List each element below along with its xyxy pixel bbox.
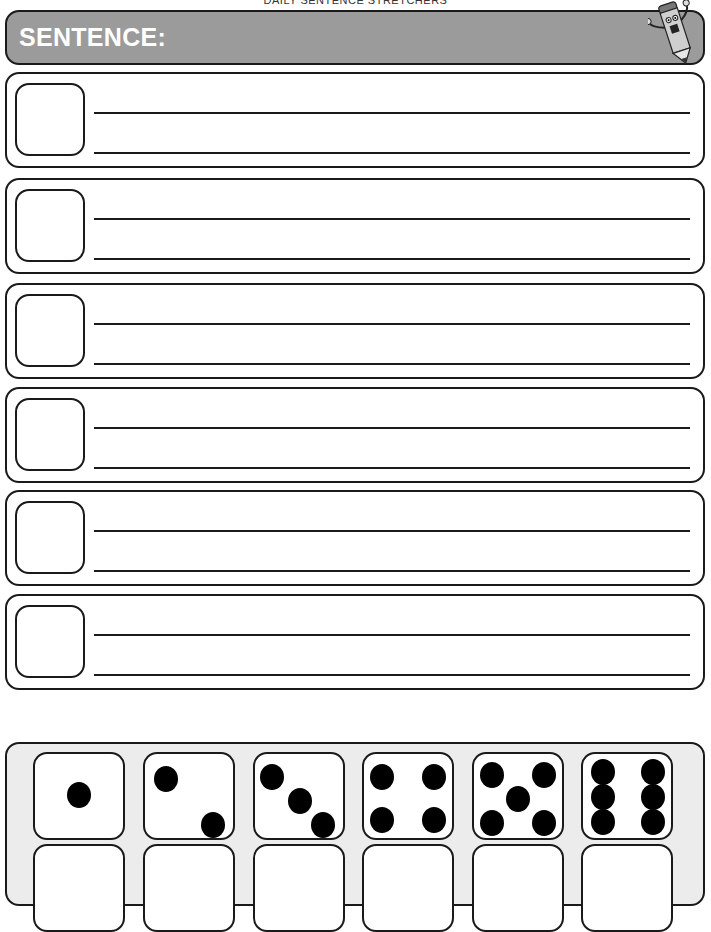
sentence-label: SENTENCE: bbox=[19, 23, 166, 52]
sentence-row bbox=[5, 283, 705, 379]
pip bbox=[480, 810, 504, 836]
pip bbox=[591, 809, 615, 835]
pip bbox=[591, 759, 615, 785]
sentence-row bbox=[5, 594, 705, 690]
sentence-row bbox=[5, 387, 705, 483]
writing-line[interactable] bbox=[94, 530, 690, 532]
pip bbox=[311, 812, 335, 838]
writing-line[interactable] bbox=[94, 258, 690, 260]
pip bbox=[532, 810, 556, 836]
pencil-mascot-icon bbox=[648, 0, 708, 76]
pip bbox=[154, 766, 178, 792]
writing-line[interactable] bbox=[94, 323, 690, 325]
writing-line[interactable] bbox=[94, 634, 690, 636]
answer-box[interactable] bbox=[253, 844, 345, 932]
sentence-row bbox=[5, 72, 705, 168]
pip bbox=[532, 762, 556, 788]
pip bbox=[260, 764, 284, 790]
answer-box[interactable] bbox=[472, 844, 564, 932]
sentence-row bbox=[5, 178, 705, 274]
answer-box[interactable] bbox=[362, 844, 454, 932]
writing-line[interactable] bbox=[94, 467, 690, 469]
sentence-row bbox=[5, 490, 705, 586]
writing-line[interactable] bbox=[94, 674, 690, 676]
pip bbox=[288, 788, 312, 814]
answer-box[interactable] bbox=[143, 844, 235, 932]
writing-line[interactable] bbox=[94, 152, 690, 154]
pip bbox=[201, 812, 225, 838]
die-face-6-icon bbox=[581, 752, 673, 840]
writing-line[interactable] bbox=[94, 427, 690, 429]
number-box[interactable] bbox=[15, 294, 85, 367]
die-face-5-icon bbox=[472, 752, 564, 840]
dice-panel bbox=[5, 742, 705, 906]
pip bbox=[641, 759, 665, 785]
answer-box[interactable] bbox=[581, 844, 673, 932]
pip bbox=[67, 782, 91, 808]
answer-box[interactable] bbox=[33, 844, 125, 932]
writing-line[interactable] bbox=[94, 363, 690, 365]
writing-line[interactable] bbox=[94, 218, 690, 220]
pip bbox=[480, 762, 504, 788]
pip bbox=[370, 807, 394, 833]
die-face-4-icon bbox=[362, 752, 454, 840]
die-face-2-icon bbox=[143, 752, 235, 840]
pip bbox=[591, 784, 615, 810]
pip bbox=[506, 786, 530, 812]
sentence-header: SENTENCE: bbox=[5, 10, 705, 65]
writing-line[interactable] bbox=[94, 570, 690, 572]
pip bbox=[641, 784, 665, 810]
number-box[interactable] bbox=[15, 189, 85, 262]
die-face-3-icon bbox=[253, 752, 345, 840]
pip bbox=[641, 809, 665, 835]
number-box[interactable] bbox=[15, 398, 85, 471]
writing-line[interactable] bbox=[94, 112, 690, 114]
pip bbox=[422, 807, 446, 833]
pip bbox=[370, 764, 394, 790]
number-box[interactable] bbox=[15, 605, 85, 678]
die-face-1-icon bbox=[33, 752, 125, 840]
document-title: DAILY SENTENCE STRETCHERS bbox=[0, 0, 711, 6]
number-box[interactable] bbox=[15, 501, 85, 574]
pip bbox=[422, 764, 446, 790]
number-box[interactable] bbox=[15, 83, 85, 156]
